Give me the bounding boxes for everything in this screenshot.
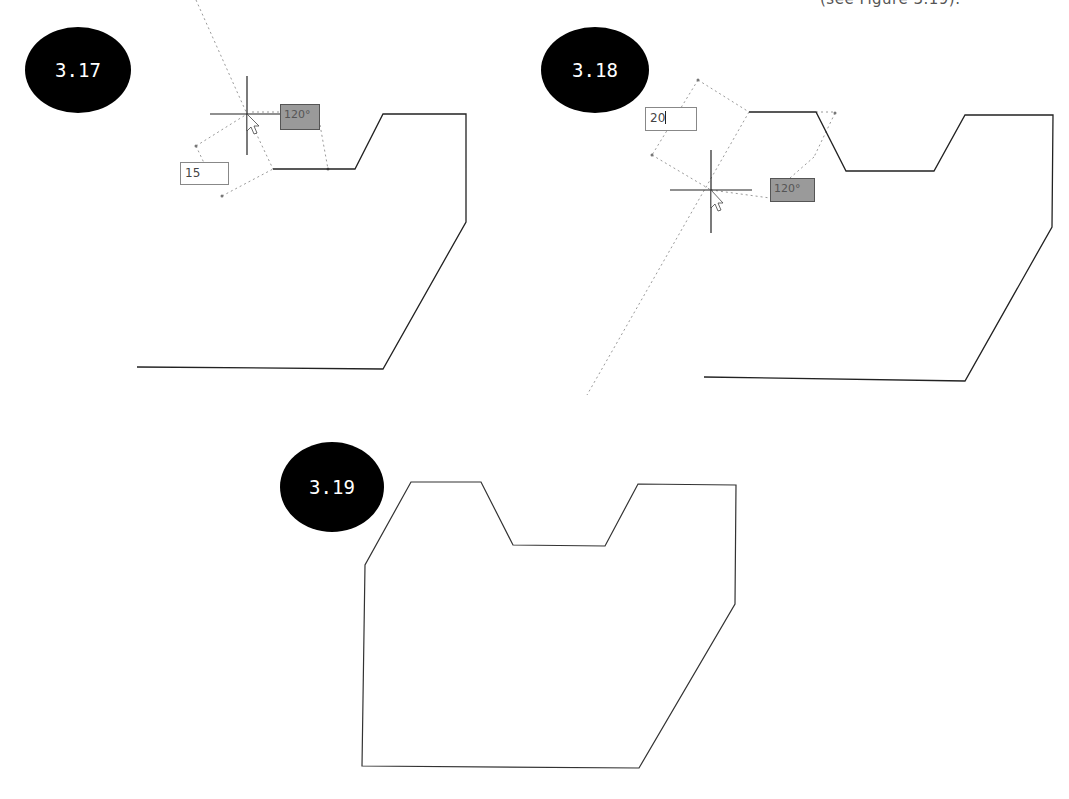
- figure-badge-label: 3.18: [572, 59, 618, 81]
- length-value: 15: [185, 166, 200, 180]
- angle-tooltip: 120°: [280, 104, 320, 130]
- figure-3-19: 3.19: [280, 442, 736, 768]
- pointer-arrow-icon: [247, 114, 259, 134]
- text-caret: [665, 111, 666, 124]
- length-input[interactable]: 20: [645, 107, 697, 131]
- tracking-lines: [587, 80, 835, 395]
- length-value: 20: [650, 111, 665, 125]
- angle-tooltip: 120°: [770, 178, 815, 202]
- figure-badge-label: 3.17: [55, 59, 101, 81]
- length-input[interactable]: 15: [180, 162, 229, 185]
- pointer-arrow-icon: [711, 190, 723, 211]
- figure-badge-label: 3.19: [309, 476, 355, 498]
- drawing-canvas[interactable]: 3.17 3.18: [0, 0, 1069, 799]
- drawn-polyline: [704, 112, 1053, 381]
- completed-polygon: [362, 482, 736, 768]
- figure-3-18: 3.18: [541, 27, 1053, 395]
- crosshair-cursor-icon: [210, 76, 280, 155]
- drawn-polyline: [137, 114, 466, 369]
- angle-value: 120°: [774, 182, 801, 195]
- figure-3-17: 3.17: [25, 0, 466, 369]
- angle-value: 120°: [284, 108, 311, 121]
